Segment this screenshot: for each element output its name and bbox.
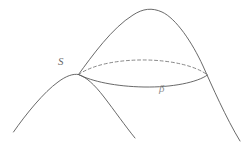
- point-label-s: S: [58, 56, 64, 67]
- figure-canvas: [0, 0, 252, 142]
- curve-label-beta: β: [159, 83, 164, 94]
- figure-background: [0, 0, 252, 142]
- figure-container: S β: [0, 0, 252, 142]
